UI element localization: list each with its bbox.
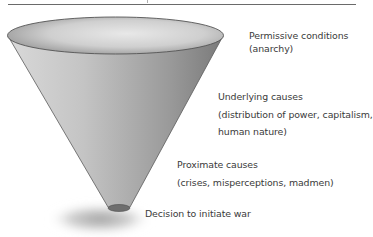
cone-tip [108,205,130,212]
proximate-title: Proximate causes [177,156,334,174]
cone-top-opening [8,17,224,54]
label-underlying-causes: Underlying causes (distribution of power… [218,88,373,141]
label-proximate-causes: Proximate causes (crises, misperceptions… [177,156,334,191]
underlying-detail-line1: (distribution of power, capitalism, [218,106,373,124]
underlying-title: Underlying causes [218,88,373,106]
underlying-detail-line2: human nature) [218,123,373,141]
decision-title: Decision to initiate war [145,205,251,223]
label-decision-to-initiate-war: Decision to initiate war [145,205,251,223]
permissive-title: Permissive conditions [249,30,348,43]
label-permissive-conditions: Permissive conditions (anarchy) [249,30,348,55]
proximate-detail: (crises, misperceptions, madmen) [177,174,334,192]
permissive-detail: (anarchy) [249,43,348,56]
cone-shadow [48,204,152,234]
